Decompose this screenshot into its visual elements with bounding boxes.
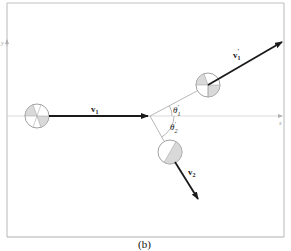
figure-caption: (b) xyxy=(138,238,151,251)
angle-arc-theta1 xyxy=(170,106,173,116)
theta1-prime-label: θ1′ xyxy=(173,104,180,117)
theta2-prime-label: θ2′ xyxy=(170,121,177,134)
collision-diagram: y x θ1′ θ2′ v1 v1′ xyxy=(0,0,291,251)
velocity-v2-arrow xyxy=(175,162,198,199)
guide-line-ball2 xyxy=(150,116,164,141)
ball-1-initial xyxy=(25,104,49,128)
v2-label: v2 xyxy=(188,167,196,178)
velocity-v1-prime-arrow xyxy=(208,42,282,85)
x-axis-label: x xyxy=(278,120,282,126)
ball-2-final xyxy=(158,140,182,164)
ball-1-final xyxy=(196,73,220,97)
v1-prime-label: v1′ xyxy=(233,48,241,61)
v1-label: v1 xyxy=(91,104,99,115)
y-axis-label: y xyxy=(0,40,4,46)
